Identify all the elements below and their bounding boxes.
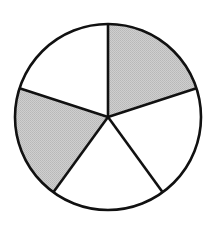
pie-chart xyxy=(0,0,224,230)
